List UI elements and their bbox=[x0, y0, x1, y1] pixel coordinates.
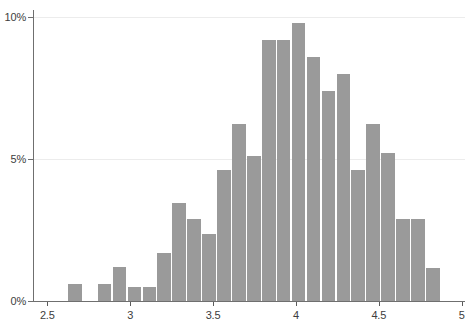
x-axis-line bbox=[33, 301, 465, 302]
bar bbox=[351, 170, 365, 301]
x-tick-mark bbox=[213, 302, 214, 306]
bar bbox=[262, 40, 276, 301]
x-tick-mark bbox=[296, 302, 297, 306]
bar bbox=[68, 284, 82, 301]
bar bbox=[292, 23, 306, 301]
x-tick-label: 4 bbox=[293, 309, 299, 321]
x-tick-label: 5 bbox=[459, 309, 465, 321]
x-tick-label: 3 bbox=[127, 309, 133, 321]
bar bbox=[411, 219, 425, 301]
x-tick-mark bbox=[379, 302, 380, 306]
y-tick-label: 10% bbox=[5, 11, 26, 23]
x-tick-label: 2.5 bbox=[40, 309, 55, 321]
bar bbox=[128, 287, 142, 301]
bar bbox=[143, 287, 157, 301]
y-tick-mark bbox=[28, 159, 33, 160]
x-tick-mark bbox=[47, 302, 48, 306]
y-tick-mark bbox=[28, 17, 33, 18]
x-tick-mark bbox=[462, 302, 463, 306]
bar bbox=[277, 40, 291, 301]
x-tick-label: 4.5 bbox=[371, 309, 386, 321]
bar bbox=[366, 124, 380, 301]
bar-series bbox=[34, 10, 465, 301]
bar bbox=[247, 156, 261, 301]
y-tick-mark bbox=[28, 301, 33, 302]
histogram-screenshot: 0%5%10% 2.533.544.55 bbox=[0, 0, 473, 323]
y-tick-label: 0% bbox=[11, 295, 27, 307]
plot-area: 0%5%10% 2.533.544.55 bbox=[33, 10, 465, 301]
bar bbox=[381, 153, 395, 301]
bar bbox=[396, 219, 410, 301]
bar bbox=[217, 170, 231, 301]
x-tick-mark bbox=[130, 302, 131, 306]
bar bbox=[337, 74, 351, 301]
bar bbox=[157, 253, 171, 301]
bar bbox=[307, 57, 321, 301]
bar bbox=[98, 284, 112, 301]
bar bbox=[322, 91, 336, 301]
bar bbox=[113, 267, 127, 301]
bar bbox=[202, 234, 216, 301]
y-tick-label: 5% bbox=[11, 153, 27, 165]
x-tick-label: 3.5 bbox=[206, 309, 221, 321]
bar bbox=[172, 203, 186, 301]
bar bbox=[426, 268, 440, 301]
bar bbox=[232, 124, 246, 301]
bar bbox=[187, 219, 201, 301]
